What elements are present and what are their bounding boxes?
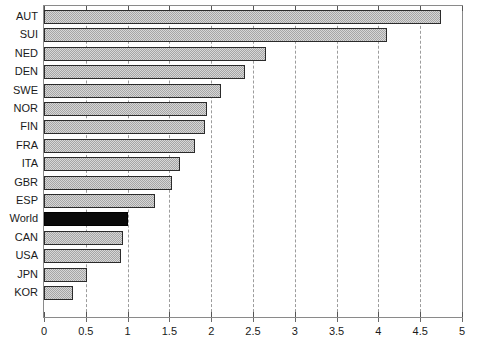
x-tick-label-4: 4 bbox=[358, 325, 398, 337]
axis-tick-1.5 bbox=[169, 318, 170, 322]
bar-swe[interactable] bbox=[44, 84, 221, 98]
tick-bottom-4 bbox=[378, 312, 379, 317]
x-tick-label-2.5: 2.5 bbox=[233, 325, 273, 337]
bar-ita[interactable] bbox=[44, 157, 180, 171]
plot-area bbox=[43, 5, 463, 318]
axis-tick-0 bbox=[44, 318, 45, 322]
axis-tick-5 bbox=[462, 318, 463, 322]
x-tick-label-3: 3 bbox=[275, 325, 315, 337]
tick-bottom-0.5 bbox=[86, 312, 87, 317]
category-label-ned: NED bbox=[0, 46, 38, 60]
axis-tick-4 bbox=[378, 318, 379, 322]
bar-can[interactable] bbox=[44, 231, 123, 245]
tick-bottom-5 bbox=[462, 312, 463, 317]
category-label-can: CAN bbox=[0, 230, 38, 244]
bar-world[interactable] bbox=[44, 212, 128, 226]
bar-jpn[interactable] bbox=[44, 268, 87, 282]
bar-fra[interactable] bbox=[44, 139, 195, 153]
gridline-3.5 bbox=[337, 6, 338, 317]
gridline-3 bbox=[295, 6, 296, 317]
tick-bottom-3.5 bbox=[337, 312, 338, 317]
x-tick-label-1.5: 1.5 bbox=[149, 325, 189, 337]
category-label-den: DEN bbox=[0, 64, 38, 78]
x-tick-label-3.5: 3.5 bbox=[317, 325, 357, 337]
tick-bottom-3 bbox=[295, 312, 296, 317]
bar-nor[interactable] bbox=[44, 102, 207, 116]
bar-chart: AUTSUINEDDENSWENORFINFRAITAGBRESPWorldCA… bbox=[0, 0, 479, 349]
tick-bottom-4.5 bbox=[420, 312, 421, 317]
gridline-4 bbox=[378, 6, 379, 317]
bar-gbr[interactable] bbox=[44, 176, 172, 190]
axis-tick-3.5 bbox=[337, 318, 338, 322]
tick-bottom-0 bbox=[44, 312, 45, 317]
bar-ned[interactable] bbox=[44, 47, 266, 61]
gridline-4.5 bbox=[420, 6, 421, 317]
tick-bottom-1.5 bbox=[169, 312, 170, 317]
axis-tick-2.5 bbox=[253, 318, 254, 322]
category-label-sui: SUI bbox=[0, 27, 38, 41]
x-tick-label-1: 1 bbox=[108, 325, 148, 337]
category-label-aut: AUT bbox=[0, 9, 38, 23]
bar-den[interactable] bbox=[44, 65, 245, 79]
x-tick-label-4.5: 4.5 bbox=[400, 325, 440, 337]
axis-tick-0.5 bbox=[86, 318, 87, 322]
axis-tick-4.5 bbox=[420, 318, 421, 322]
category-label-nor: NOR bbox=[0, 101, 38, 115]
category-label-kor: KOR bbox=[0, 285, 38, 299]
bar-usa[interactable] bbox=[44, 249, 121, 263]
x-tick-label-0: 0 bbox=[24, 325, 64, 337]
x-tick-label-5: 5 bbox=[442, 325, 479, 337]
category-label-jpn: JPN bbox=[0, 267, 38, 281]
bar-sui[interactable] bbox=[44, 28, 387, 42]
tick-top-5 bbox=[462, 6, 463, 11]
axis-tick-1 bbox=[128, 318, 129, 322]
category-label-gbr: GBR bbox=[0, 175, 38, 189]
axis-tick-3 bbox=[295, 318, 296, 322]
x-tick-label-2: 2 bbox=[191, 325, 231, 337]
bar-esp[interactable] bbox=[44, 194, 155, 208]
category-label-swe: SWE bbox=[0, 83, 38, 97]
axis-tick-2 bbox=[211, 318, 212, 322]
category-label-fra: FRA bbox=[0, 138, 38, 152]
tick-bottom-2 bbox=[211, 312, 212, 317]
category-label-ita: ITA bbox=[0, 156, 38, 170]
category-label-fin: FIN bbox=[0, 119, 38, 133]
category-label-usa: USA bbox=[0, 248, 38, 262]
category-label-esp: ESP bbox=[0, 193, 38, 207]
category-label-world: World bbox=[0, 211, 38, 225]
tick-bottom-1 bbox=[128, 312, 129, 317]
bar-aut[interactable] bbox=[44, 10, 441, 24]
x-tick-label-0.5: 0.5 bbox=[66, 325, 106, 337]
tick-bottom-2.5 bbox=[253, 312, 254, 317]
bar-kor[interactable] bbox=[44, 286, 73, 300]
bar-fin[interactable] bbox=[44, 120, 205, 134]
